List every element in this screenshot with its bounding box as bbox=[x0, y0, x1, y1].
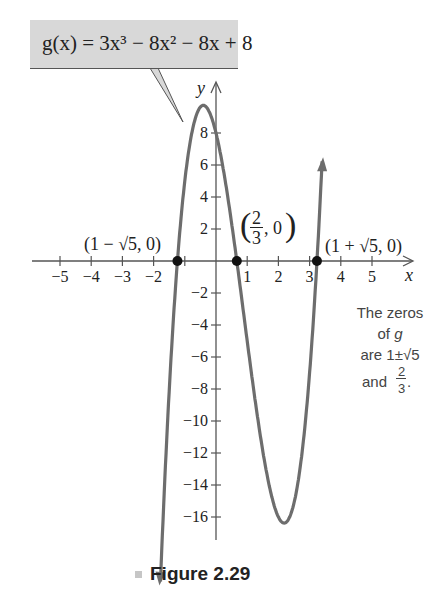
svg-text:−6: −6 bbox=[191, 348, 208, 365]
svg-text:−2: −2 bbox=[191, 284, 208, 301]
caption-bullet-icon bbox=[135, 571, 142, 578]
callout-pointer bbox=[150, 68, 183, 122]
svg-text:−2: −2 bbox=[145, 268, 162, 285]
note-line-2: of g bbox=[340, 323, 439, 344]
function-label: g(x) = 3x³ − 8x² − 8x + 8 bbox=[42, 31, 252, 56]
ticks: −5−4−3−212345−16−14−12−10−8−6−4−22468 bbox=[51, 124, 376, 525]
svg-text:5: 5 bbox=[368, 268, 376, 285]
figure-caption: Figure 2.29 bbox=[150, 563, 250, 585]
svg-text:−5: −5 bbox=[51, 268, 68, 285]
zero-point bbox=[312, 256, 322, 266]
svg-text:−16: −16 bbox=[183, 508, 208, 525]
svg-text:8: 8 bbox=[200, 124, 208, 141]
svg-text:1: 1 bbox=[243, 268, 251, 285]
svg-text:−8: −8 bbox=[191, 380, 208, 397]
svg-text:−14: −14 bbox=[183, 476, 208, 493]
middle-rest: , 0 bbox=[264, 218, 282, 239]
note-line-1: The zeros bbox=[340, 302, 439, 323]
frac-den: 3 bbox=[252, 228, 261, 249]
svg-text:4: 4 bbox=[200, 188, 208, 205]
zero-point bbox=[172, 256, 182, 266]
svg-text:−4: −4 bbox=[83, 268, 100, 285]
svg-text:3: 3 bbox=[306, 268, 314, 285]
note-line-3: are 1±√5 bbox=[340, 344, 439, 365]
svg-text:2: 2 bbox=[274, 268, 282, 285]
note-g: g bbox=[394, 325, 402, 342]
svg-text:2: 2 bbox=[200, 220, 208, 237]
svg-text:−4: −4 bbox=[191, 316, 208, 333]
svg-text:4: 4 bbox=[337, 268, 345, 285]
svg-text:−12: −12 bbox=[183, 444, 208, 461]
zero-label-right: (1 + √5, 0) bbox=[325, 236, 402, 257]
note-line-4: and 2 3 . bbox=[340, 365, 439, 393]
zero-point bbox=[232, 256, 242, 266]
x-axis-label: x bbox=[405, 265, 413, 286]
function-graph: −5−4−3−212345−16−14−12−10−8−6−4−22468 bbox=[0, 0, 439, 597]
zero-label-left: (1 − √5, 0) bbox=[84, 234, 161, 255]
arrow-up-icon bbox=[317, 157, 327, 171]
zeros-note: The zeros of g are 1±√5 and 2 3 . bbox=[340, 302, 439, 393]
frac-num: 2 bbox=[252, 208, 261, 229]
svg-text:−10: −10 bbox=[183, 412, 208, 429]
svg-text:6: 6 bbox=[200, 156, 208, 173]
svg-text:−3: −3 bbox=[114, 268, 131, 285]
y-axis-label: y bbox=[197, 78, 205, 99]
function-callout: g(x) = 3x³ − 8x² − 8x + 8 bbox=[30, 20, 238, 69]
